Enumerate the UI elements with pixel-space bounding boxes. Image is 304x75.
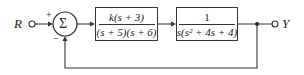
minus-sign: −	[53, 34, 59, 44]
output-terminal	[272, 21, 278, 27]
block1-denominator: (s + 5)(s + 6)	[96, 26, 156, 38]
arrow-feedback	[63, 36, 68, 41]
fraction-bar	[99, 24, 155, 25]
output-label: Y	[282, 17, 289, 30]
input-terminal	[29, 21, 35, 27]
sigma-symbol: Σ	[59, 17, 67, 31]
block1-numerator: k(s + 3)	[109, 11, 144, 23]
block2-denominator: s(s² + 4s + 4)	[177, 26, 237, 38]
block2-numerator: 1	[204, 11, 210, 23]
controller-block: k(s + 3) (s + 5)(s + 6)	[95, 7, 158, 41]
arrow-into-sum	[48, 22, 53, 27]
fraction-bar	[179, 24, 235, 25]
input-label: R	[14, 17, 22, 30]
plant-block: 1 s(s² + 4s + 4)	[176, 7, 238, 41]
plus-sign: +	[46, 10, 52, 20]
